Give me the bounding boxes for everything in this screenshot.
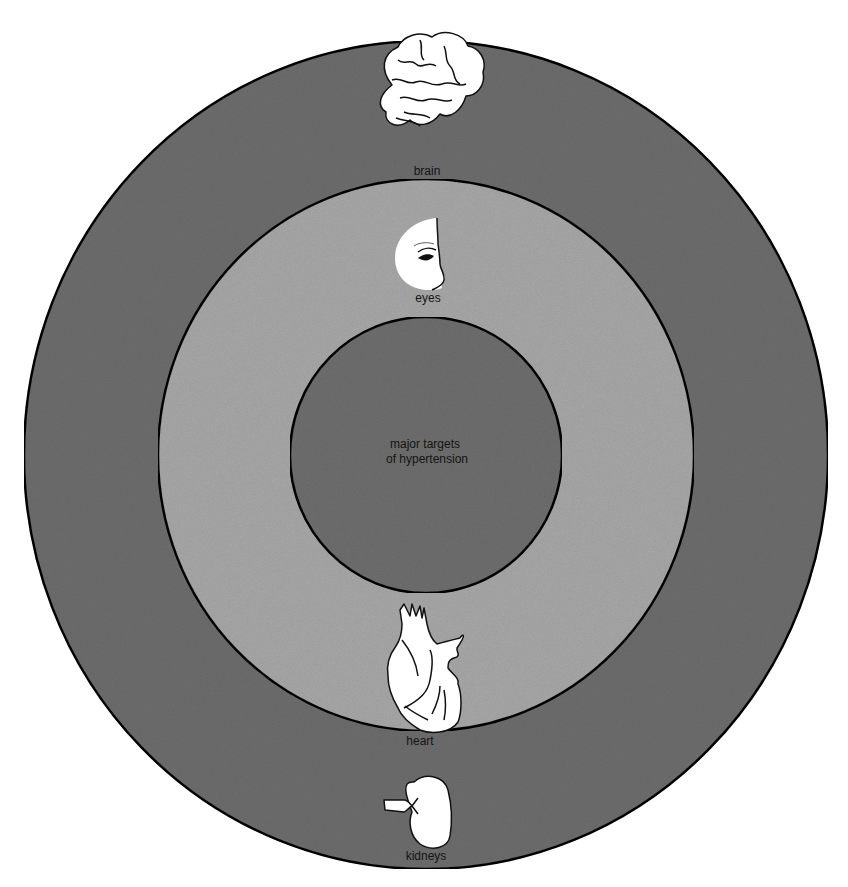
hypertension-target-diagram: major targets of hypertension brain eyes… xyxy=(0,0,848,887)
eyes-label: eyes xyxy=(415,291,440,305)
heart-label: heart xyxy=(406,734,434,748)
center-label-line-1: major targets xyxy=(390,437,460,451)
kidneys-label: kidneys xyxy=(406,849,447,863)
center-label: major targets of hypertension xyxy=(386,434,468,466)
center-label-line-2: of hypertension xyxy=(386,452,468,466)
brain-label: brain xyxy=(414,164,441,178)
